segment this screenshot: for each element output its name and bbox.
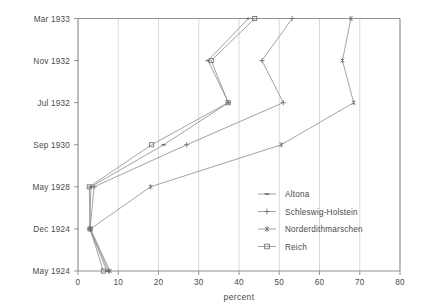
chart-container: 01020304050607080 Mar 1933Nov 1932Jul 19… [0,0,423,307]
x-tick-label: 30 [194,278,204,287]
y-tick-label: Dec 1924 [33,225,70,234]
series-line-altona [90,19,249,272]
y-tick-label: Sep 1930 [33,141,70,150]
line-chart-plot: 01020304050607080 Mar 1933Nov 1932Jul 19… [0,0,423,307]
x-tick-label: 40 [234,278,244,287]
x-tick-label: 20 [154,278,164,287]
y-tick-labels: Mar 1933Nov 1932Jul 1932Sep 1930May 1928… [32,15,70,277]
x-tick-labels: 01020304050607080 [76,278,405,287]
legend-label-reich: Reich [285,243,307,252]
series-line-schleswig-holstein [90,19,292,272]
x-tick-label: 50 [274,278,284,287]
legend-label-schleswig-holstein: Schleswig-Holstein [285,208,358,217]
legend-label-altona: Altona [285,190,310,199]
x-tick-label: 80 [395,278,405,287]
series-markers [87,16,356,274]
x-tick-label: 70 [355,278,365,287]
y-tick-label: May 1928 [32,183,70,192]
tick-marks [74,19,400,276]
x-axis-title: percent [224,292,255,302]
x-tick-label: 10 [113,278,123,287]
legend-label-norderdithmarschen: Norderdithmarschen [285,225,363,234]
y-tick-label: Jul 1932 [37,99,70,108]
y-tick-label: May 1924 [32,267,70,276]
y-tick-label: Mar 1933 [34,15,70,24]
x-tick-label: 60 [315,278,325,287]
y-tick-label: Nov 1932 [33,57,70,66]
x-tick-label: 0 [76,278,81,287]
legend: AltonaSchleswig-HolsteinNorderdithmarsch… [258,190,363,252]
series-line-reich [89,19,254,272]
